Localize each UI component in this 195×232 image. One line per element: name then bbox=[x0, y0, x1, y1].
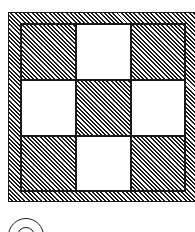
grid-cell-r3c1-hatched bbox=[21, 136, 76, 191]
grid-cell-r2c1-white bbox=[21, 80, 76, 136]
grid-cell-r2c2-hatched bbox=[76, 80, 131, 136]
grid-cell-r1c1-hatched bbox=[21, 24, 76, 80]
option-label-inner-circle bbox=[17, 227, 35, 232]
option-label-circle bbox=[8, 218, 44, 232]
grid-cell-r1c2-white bbox=[76, 24, 131, 80]
grid-cell-r3c3-hatched bbox=[131, 136, 185, 191]
checker-grid bbox=[20, 23, 186, 192]
grid-cell-r2c3-white bbox=[131, 80, 185, 136]
grid-cell-r1c3-hatched bbox=[131, 24, 185, 80]
grid-cell-r3c2-white bbox=[76, 136, 131, 191]
